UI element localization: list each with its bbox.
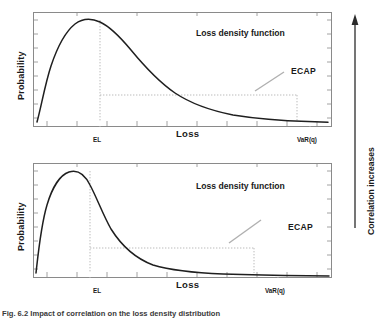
ecap-annotation-top: ECAP bbox=[291, 66, 316, 76]
axis-marker-var-bottom bbox=[276, 277, 281, 278]
ecap-annotation-bottom: ECAP bbox=[288, 222, 313, 232]
ecap-leader-line-bottom bbox=[229, 220, 261, 243]
y-axis-label-bottom: Probability bbox=[16, 202, 26, 251]
chart-panel-bottom bbox=[33, 163, 332, 278]
ecap-leader-line-top bbox=[255, 72, 284, 91]
y-axis-label-top: Probability bbox=[16, 51, 26, 100]
x-axis-label-bottom: Loss bbox=[176, 279, 199, 290]
chart-panel-top bbox=[33, 12, 332, 127]
density-annotation-top: Loss density function bbox=[196, 28, 285, 38]
axis-marker-el-top bbox=[98, 126, 103, 127]
tick-label-var-top: VaR(q) bbox=[297, 136, 317, 143]
x-ticks-bottom-edge bbox=[77, 163, 317, 167]
y-ticks-bottom bbox=[33, 171, 38, 269]
figure-caption: Fig. 6.2 Impact of correlation on the lo… bbox=[2, 309, 386, 318]
tick-label-el-top: EL bbox=[93, 136, 101, 143]
axis-marker-var-top bbox=[308, 126, 313, 127]
x-ticks-top bbox=[47, 121, 317, 126]
y-ticks-top bbox=[33, 20, 38, 118]
x-ticks-bottom bbox=[47, 272, 317, 277]
correlation-arrow-label: Correlation increases bbox=[366, 147, 376, 235]
tick-label-el-bottom: EL bbox=[93, 287, 101, 294]
loss-density-curve-bottom bbox=[36, 171, 329, 276]
plot-canvas-bottom bbox=[33, 163, 332, 278]
tick-label-var-bottom: VaR(q) bbox=[265, 287, 285, 294]
y-ticks-right-bottom bbox=[327, 171, 332, 269]
y-ticks-right-top bbox=[327, 20, 332, 118]
axis-marker-el-bottom bbox=[88, 277, 93, 278]
plot-canvas-top bbox=[33, 12, 332, 127]
figure-loss-density-correlation: Probability Loss Loss density function E… bbox=[0, 0, 388, 321]
density-annotation-bottom: Loss density function bbox=[196, 181, 285, 191]
x-ticks-top-edge bbox=[77, 12, 317, 16]
x-axis-label-top: Loss bbox=[176, 128, 199, 139]
correlation-arrow bbox=[344, 10, 366, 300]
